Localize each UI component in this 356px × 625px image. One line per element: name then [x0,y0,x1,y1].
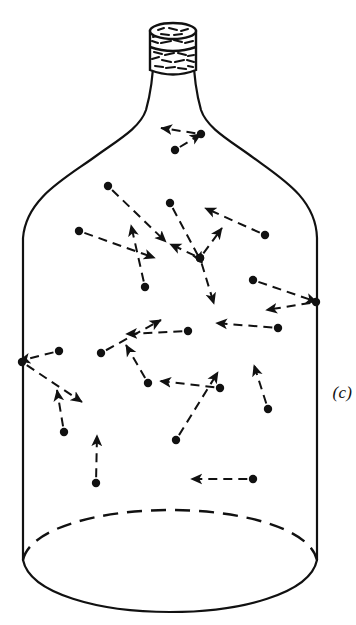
bottle-base-front [23,560,317,612]
velocity-vector [57,390,63,426]
bottle-left-profile [23,52,154,560]
figure-container: (c) [0,0,356,625]
particle-dot [166,199,174,207]
particle-dot [144,379,152,387]
particle-dot [197,130,205,138]
particle-p07 [131,225,149,291]
velocity-vector [112,190,166,242]
particle-dot [249,475,257,483]
particle-p15 [126,327,192,335]
bottle-illustration [0,0,356,625]
particle-p23 [92,435,100,487]
particle-dot [104,182,112,190]
particle-dot [264,405,272,413]
particle-dot [141,283,149,291]
bottle-base-back-dashed [23,510,317,560]
cork-stopper [150,23,196,75]
velocity-vector [27,365,82,402]
particle-p01 [171,134,201,154]
velocity-vector [84,233,155,258]
particle-p13 [266,298,320,310]
velocity-vector [258,282,317,302]
particle-p20 [160,381,224,392]
particle-p14 [216,323,282,332]
particle-p03 [104,182,166,242]
particle-dot [97,349,105,357]
particle-dot [261,231,269,239]
velocity-vector [203,228,222,253]
particle-p17 [18,358,82,402]
particle-dot [312,298,320,306]
particle-dot [196,254,204,262]
velocity-vector [161,128,195,133]
particle-dot [92,479,100,487]
particle-p12 [249,276,317,302]
particle-p02 [161,128,205,138]
velocity-vector [216,323,272,328]
particle-p24 [191,475,257,483]
particle-dot [172,436,180,444]
figure-part-label: (c) [333,383,352,403]
velocity-vector [126,345,145,378]
velocity-vector [266,303,310,310]
particle-dot [249,276,257,284]
velocity-vector [170,244,195,256]
velocity-vector [160,381,214,387]
particle-dot [55,347,63,355]
velocity-vector [254,365,266,404]
particle-dot [184,327,192,335]
velocity-vector [202,263,214,304]
particle-layer [18,128,320,487]
velocity-vector [179,372,218,435]
particle-p19 [126,345,152,387]
particle-dot [274,324,282,332]
particle-p05 [205,208,269,239]
particle-dot [216,384,224,392]
particle-dot [171,146,179,154]
particle-p18 [57,390,68,436]
particle-p22 [254,365,272,413]
velocity-vector [106,320,161,350]
particle-dot [18,358,26,366]
particle-dot [75,227,83,235]
velocity-vector [205,208,260,233]
bottle-outline [23,52,317,612]
particle-p10 [170,244,204,262]
velocity-vector [126,331,182,334]
bottle-right-profile [193,52,317,560]
particle-p16 [19,347,63,361]
particle-dot [60,428,68,436]
particle-p06 [75,227,155,258]
velocity-vector [96,435,97,477]
particle-p04 [166,199,202,263]
